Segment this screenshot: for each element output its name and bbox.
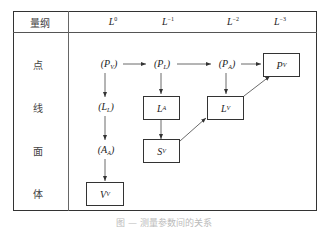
node-la-boxed: LA	[143, 96, 180, 120]
node-pv-unboxed: (PV)	[101, 58, 117, 70]
node-sv-boxed: SV	[143, 139, 180, 163]
node-pl-unboxed: (PL)	[154, 58, 170, 70]
node-lv-boxed: LV	[207, 96, 244, 120]
figure-caption: 图 — 测量参数间的关系	[116, 216, 212, 228]
node-pa-unboxed: (PA)	[219, 58, 235, 70]
node-vv-boxed: VV	[86, 182, 124, 206]
node-aa-unboxed: (AA)	[98, 144, 114, 156]
node-pv-boxed: PV	[263, 53, 300, 77]
node-ll-unboxed: (LL)	[98, 101, 114, 113]
